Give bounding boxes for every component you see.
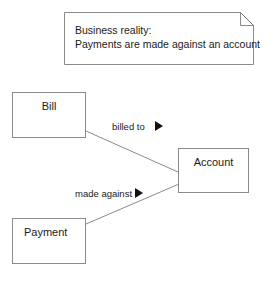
association-direction-triangle-icon: [155, 121, 163, 131]
class-box-bill-label: Bill: [13, 100, 85, 113]
note-shape: Business reality: Payments are made agai…: [64, 12, 254, 65]
association-label-billed-to: billed to: [112, 121, 145, 132]
class-box-account-label: Account: [179, 156, 248, 169]
note-text-line-1: Business reality:: [75, 23, 260, 37]
uml-class-diagram: Business reality: Payments are made agai…: [0, 0, 272, 282]
class-box-account[interactable]: Account: [178, 148, 249, 193]
class-box-payment-label: Payment: [13, 226, 85, 239]
note-text: Business reality: Payments are made agai…: [75, 23, 260, 51]
association-line-billed-to: [86, 131, 178, 172]
note-text-line-2: Payments are made against an account: [75, 37, 260, 51]
class-box-bill[interactable]: Bill: [12, 92, 86, 138]
association-label-made-against: made against: [75, 188, 132, 199]
association-direction-triangle-icon: [135, 188, 143, 198]
class-box-payment[interactable]: Payment: [12, 218, 86, 264]
